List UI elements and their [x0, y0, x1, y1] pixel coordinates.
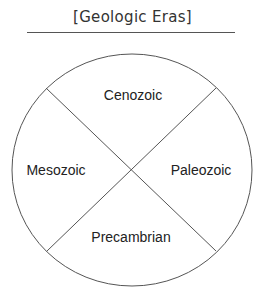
- section-label-right: Paleozoic: [171, 162, 232, 178]
- section-label-left: Mesozoic: [26, 162, 85, 178]
- section-label-bottom: Precambrian: [91, 229, 170, 245]
- section-label-top: Cenozoic: [104, 87, 162, 103]
- era-circle-diagram: [0, 0, 265, 298]
